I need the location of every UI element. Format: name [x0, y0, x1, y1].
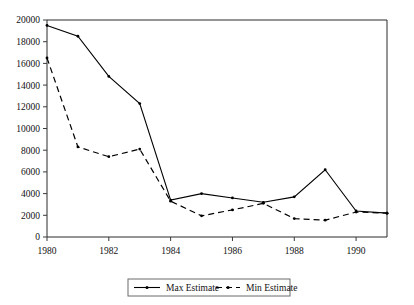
data-point	[200, 214, 203, 217]
plot-border	[47, 20, 387, 237]
data-point	[324, 168, 327, 171]
legend-label-max-estimate: Max Estimate	[166, 283, 219, 293]
data-point	[200, 192, 203, 195]
data-point	[138, 102, 141, 105]
legend-label-min-estimate: Min Estimate	[246, 283, 297, 293]
series-markers-min-estimate	[46, 57, 389, 222]
data-point	[324, 219, 327, 222]
y-tick-label: 16000	[16, 59, 40, 69]
x-tick-label: 1980	[38, 246, 57, 256]
x-axis-tick-labels: 198019821984198619881990	[38, 246, 366, 256]
y-axis-tick-labels: 0200040006000800010000120001400016000180…	[16, 15, 40, 242]
data-point	[46, 57, 49, 60]
data-point	[293, 195, 296, 198]
data-point	[386, 212, 389, 215]
data-point	[107, 155, 110, 158]
y-tick-label: 12000	[16, 102, 40, 112]
data-point	[231, 197, 234, 200]
plot-frame	[47, 20, 387, 237]
y-tick-label: 0	[35, 232, 40, 242]
series-group	[46, 24, 389, 222]
y-tick-label: 10000	[16, 124, 40, 134]
x-tick-label: 1988	[285, 246, 304, 256]
line-chart: 0200040006000800010000120001400016000180…	[0, 0, 414, 305]
data-point	[293, 217, 296, 220]
y-axis-ticks	[43, 20, 47, 237]
data-point	[355, 211, 358, 214]
y-tick-label: 2000	[21, 211, 40, 221]
data-point	[138, 148, 141, 151]
y-tick-label: 8000	[21, 146, 40, 156]
x-tick-label: 1986	[223, 246, 242, 256]
legend-marker-min-estimate	[226, 286, 229, 289]
x-axis-ticks	[47, 237, 356, 241]
data-point	[169, 200, 172, 203]
series-line-max-estimate	[47, 25, 387, 213]
data-point	[262, 202, 265, 205]
x-tick-label: 1984	[161, 246, 180, 256]
x-tick-label: 1990	[347, 246, 366, 256]
y-tick-label: 18000	[16, 37, 40, 47]
chart-legend: Max Estimate Min Estimate	[128, 279, 297, 296]
y-tick-label: 6000	[21, 167, 40, 177]
data-point	[107, 75, 110, 78]
data-point	[77, 146, 80, 149]
y-tick-label: 20000	[16, 15, 40, 25]
chart-container: 0200040006000800010000120001400016000180…	[0, 0, 414, 305]
data-point	[231, 208, 234, 211]
x-tick-label: 1982	[99, 246, 118, 256]
legend-marker-max-estimate	[146, 286, 149, 289]
y-tick-label: 14000	[16, 81, 40, 91]
y-tick-label: 4000	[21, 189, 40, 199]
data-point	[46, 24, 49, 27]
data-point	[77, 35, 80, 38]
